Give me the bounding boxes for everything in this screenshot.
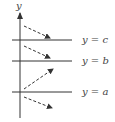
label-y-equals-b: y = b [82, 56, 109, 66]
arrow-above-c [24, 26, 50, 38]
label-y-equals-c: y = c [82, 35, 108, 45]
arrow-between-c-b [24, 46, 50, 58]
label-y-equals-a: y = a [82, 87, 108, 97]
axis-label-y: y [16, 1, 22, 11]
arrow-between-a-b [24, 69, 53, 89]
arrow-below-a [24, 97, 52, 108]
